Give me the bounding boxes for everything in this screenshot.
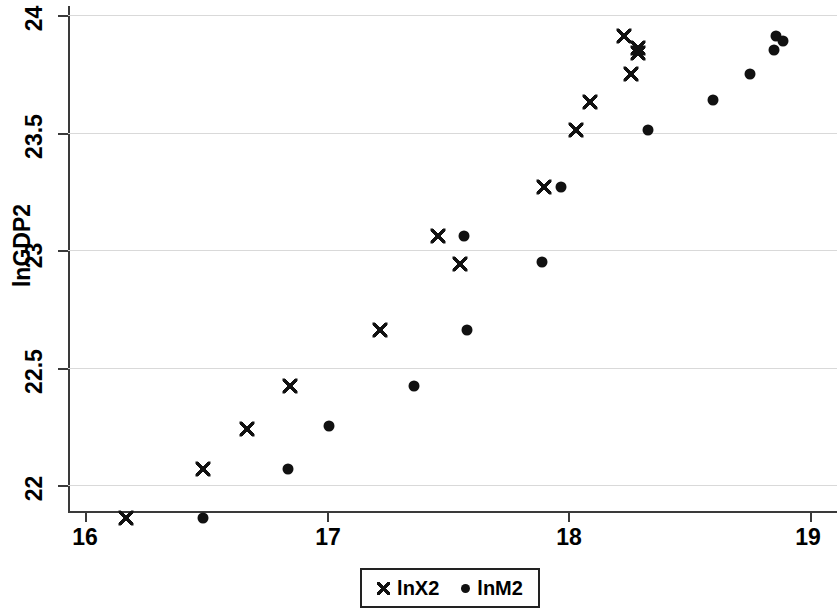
data-point-lnm2 bbox=[643, 125, 654, 136]
legend-label-lnm2: lnM2 bbox=[477, 577, 523, 600]
y-tick-label-23-5: 23.5 bbox=[21, 108, 48, 166]
data-point-lnm2 bbox=[408, 381, 419, 392]
data-point-lnm2 bbox=[768, 45, 779, 56]
gridline-y-23 bbox=[68, 250, 837, 251]
x-tick-label-16: 16 bbox=[72, 524, 98, 551]
data-point-lnx2 bbox=[239, 421, 254, 436]
data-point-lnx2 bbox=[283, 379, 298, 394]
scatter-chart-figure: lnGDP2 24 23.5 23 22.5 22 16 17 18 19 ln… bbox=[0, 0, 837, 608]
y-tick-label-22-5: 22.5 bbox=[21, 343, 48, 401]
data-point-lnx2 bbox=[119, 510, 134, 525]
x-tick-mark-16 bbox=[85, 512, 87, 522]
data-point-lnm2 bbox=[198, 512, 209, 523]
data-point-lnx2 bbox=[430, 228, 445, 243]
x-tick-mark-19 bbox=[810, 512, 812, 522]
data-point-lnx2 bbox=[196, 461, 211, 476]
data-point-lnm2 bbox=[708, 94, 719, 105]
gridline-y-22-5 bbox=[68, 368, 837, 369]
gridline-y-22 bbox=[68, 485, 837, 486]
y-tick-label-23: 23 bbox=[21, 236, 48, 276]
x-tick-label-19: 19 bbox=[795, 524, 821, 551]
data-point-lnm2 bbox=[536, 256, 547, 267]
plot-area bbox=[68, 6, 837, 512]
data-point-lnm2 bbox=[324, 421, 335, 432]
data-point-lnx2 bbox=[624, 66, 639, 81]
legend-item-lnm2[interactable]: lnM2 bbox=[461, 577, 523, 600]
data-point-lnx2 bbox=[631, 45, 646, 60]
chart-legend: lnX2 lnM2 bbox=[360, 568, 540, 608]
x-tick-label-17: 17 bbox=[315, 524, 341, 551]
y-tick-label-22: 22 bbox=[21, 469, 48, 509]
data-point-lnx2 bbox=[372, 322, 387, 337]
gridline-y-24 bbox=[68, 15, 837, 16]
legend-label-lnx2: lnX2 bbox=[397, 577, 439, 600]
data-point-lnm2 bbox=[283, 463, 294, 474]
data-point-lnm2 bbox=[556, 181, 567, 192]
data-point-lnx2 bbox=[452, 257, 467, 272]
gridline-y-23-5 bbox=[68, 133, 837, 134]
data-point-lnm2 bbox=[461, 324, 472, 335]
x-tick-mark-18 bbox=[568, 512, 570, 522]
dot-marker-icon bbox=[461, 584, 470, 593]
data-point-lnx2 bbox=[616, 29, 631, 44]
data-point-lnx2 bbox=[568, 123, 583, 138]
y-tick-label-24: 24 bbox=[21, 0, 48, 39]
x-marker-icon bbox=[377, 582, 390, 595]
data-point-lnm2 bbox=[744, 68, 755, 79]
data-point-lnm2 bbox=[459, 230, 470, 241]
legend-item-lnx2[interactable]: lnX2 bbox=[377, 577, 439, 600]
data-point-lnx2 bbox=[537, 179, 552, 194]
data-point-lnm2 bbox=[778, 35, 789, 46]
x-tick-mark-17 bbox=[327, 512, 329, 522]
data-point-lnx2 bbox=[583, 94, 598, 109]
x-tick-label-18: 18 bbox=[556, 524, 582, 551]
